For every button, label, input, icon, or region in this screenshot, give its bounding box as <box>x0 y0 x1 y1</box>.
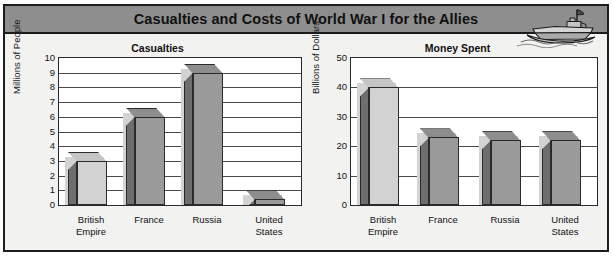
y-axis-tick-label: 9 <box>50 68 55 78</box>
chart-panel-casualties: Casualties Millions of People 0123456789… <box>9 38 306 252</box>
bar-side-face <box>126 117 135 205</box>
bar-british-empire <box>77 161 107 205</box>
x-axis-category-label: France <box>416 214 470 226</box>
bar-british-empire <box>369 87 399 205</box>
bar-front-face <box>491 140 521 205</box>
plot-area-casualties: 012345678910 <box>58 57 302 206</box>
y-axis-tick-label: 0 <box>50 200 55 210</box>
bar-front-face <box>255 199 285 205</box>
bar-side-face <box>420 137 429 205</box>
bar-united-states <box>551 140 581 205</box>
y-axis-tick-label: 50 <box>336 53 347 63</box>
y-axis-tick-label: 1 <box>50 186 55 196</box>
gridline <box>59 73 301 74</box>
bar-front-face <box>135 117 165 205</box>
bar-side-face <box>360 87 369 205</box>
y-axis-tick-label: 6 <box>50 112 55 122</box>
bar-russia <box>193 73 223 205</box>
bar-side-face <box>542 140 551 205</box>
y-axis-tick-label: 10 <box>44 53 55 63</box>
chart-panel-money-spent: Money Spent Billions of Dollars 01020304… <box>308 38 607 252</box>
x-axis-category-label: BritishEmpire <box>356 214 410 238</box>
gridline <box>59 146 301 147</box>
bar-front-face <box>429 137 459 205</box>
x-axis-category-label: UnitedStates <box>242 214 296 238</box>
x-axis-category-label: Russia <box>180 214 234 226</box>
bar-france <box>429 137 459 205</box>
y-axis-tick-label: 5 <box>50 127 55 137</box>
plot-area-money-spent: 01020304050 <box>350 57 598 206</box>
x-axis-category-label: France <box>122 214 176 226</box>
x-axis-category-label: BritishEmpire <box>64 214 118 238</box>
y-axis-tick-label: 2 <box>50 171 55 181</box>
y-axis-tick-label: 7 <box>50 97 55 107</box>
chart-title-money-spent: Money Spent <box>308 42 607 54</box>
gridline <box>59 132 301 133</box>
y-axis-tick-label: 10 <box>336 171 347 181</box>
bar-front-face <box>551 140 581 205</box>
y-axis-tick-label: 0 <box>342 200 347 210</box>
x-axis-category-label: Russia <box>478 214 532 226</box>
header-bar: Casualties and Costs of World War I for … <box>5 6 607 34</box>
page-title: Casualties and Costs of World War I for … <box>5 11 607 27</box>
y-axis-tick-label: 4 <box>50 141 55 151</box>
y-axis-label-money-spent: Billions of Dollars <box>310 21 321 94</box>
gridline <box>59 117 301 118</box>
y-axis-tick-label: 40 <box>336 83 347 93</box>
bar-russia <box>491 140 521 205</box>
bar-side-face <box>184 73 193 205</box>
bar-front-face <box>77 161 107 205</box>
bar-united-states <box>255 199 285 205</box>
y-axis-label-casualties: Millions of People <box>11 20 22 94</box>
gridline <box>59 87 301 88</box>
bar-front-face <box>193 73 223 205</box>
bar-side-face <box>482 140 491 205</box>
gridline <box>59 102 301 103</box>
bar-front-face <box>369 87 399 205</box>
y-axis-tick-label: 8 <box>50 83 55 93</box>
poster-container: Casualties and Costs of World War I for … <box>3 4 609 252</box>
bar-france <box>135 117 165 205</box>
y-axis-tick-label: 20 <box>336 141 347 151</box>
y-axis-tick-label: 3 <box>50 156 55 166</box>
y-axis-tick-label: 30 <box>336 112 347 122</box>
x-axis-category-label: UnitedStates <box>538 214 592 238</box>
